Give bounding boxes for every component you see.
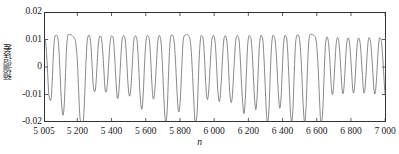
x-tick-label: 5 200	[67, 127, 88, 137]
x-tick-label: 6 000	[203, 127, 224, 137]
plot-area	[44, 12, 386, 122]
x-tick-label: 5 400	[101, 127, 122, 137]
prediction-error-chart: 预测误差 0.020.010-0.01-0.02 5 0055 2005 400…	[0, 0, 399, 154]
x-tick-label: 6 400	[272, 127, 293, 137]
x-tick-label: 6 200	[238, 127, 259, 137]
plot-frame	[45, 13, 386, 122]
x-axis-title: n	[0, 137, 399, 147]
x-tick-label: 7 000	[374, 127, 395, 137]
x-tick-label: 5 800	[169, 127, 190, 137]
x-tick-label: 6 800	[340, 127, 361, 137]
plot-svg	[44, 12, 386, 122]
x-tick-label: 6 600	[306, 127, 327, 137]
x-tick-label: 5 600	[135, 127, 156, 137]
x-tick-label: 5 005	[33, 127, 54, 137]
